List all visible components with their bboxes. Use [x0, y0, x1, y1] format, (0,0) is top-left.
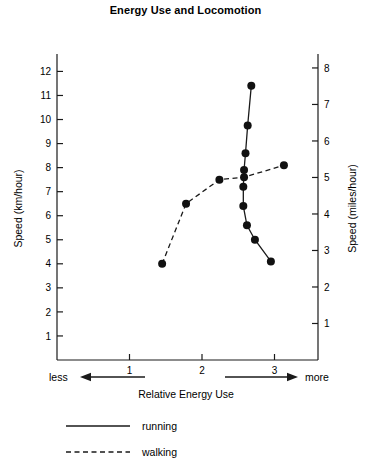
data-point-walking[interactable]	[215, 176, 223, 184]
data-point-running[interactable]	[247, 82, 255, 90]
legend-label-walking: walking	[141, 446, 177, 458]
y-axis-title-left: Speed (km/hour)	[12, 169, 24, 247]
data-point-running[interactable]	[239, 183, 247, 191]
data-point-walking[interactable]	[280, 161, 288, 169]
y-tick-label-left: 9	[45, 138, 51, 149]
data-point-running[interactable]	[267, 257, 275, 265]
y-tick-label-left: 6	[45, 210, 51, 221]
x-tick-label: 1	[127, 365, 133, 376]
y-tick-label-right: 5	[324, 172, 330, 183]
data-point-walking[interactable]	[182, 200, 190, 208]
y-tick-label-left: 7	[45, 186, 51, 197]
legend-label-running: running	[142, 420, 177, 432]
x-axis-less-label: less	[49, 371, 68, 383]
data-point-walking[interactable]	[240, 173, 248, 181]
data-point-running[interactable]	[239, 202, 247, 210]
y-tick-label-left: 3	[45, 282, 51, 293]
x-axis-more-label: more	[305, 371, 329, 383]
chart-container: Energy Use and Locomotion 12345678910111…	[0, 0, 371, 476]
series-line-running	[243, 86, 271, 262]
y-tick-label-right: 4	[324, 209, 330, 220]
data-point-walking[interactable]	[158, 260, 166, 268]
x-tick-label: 3	[272, 365, 278, 376]
data-point-running[interactable]	[244, 122, 252, 130]
y-axis-title-right: Speed (miles/hour)	[346, 164, 358, 253]
y-tick-label-left: 12	[40, 66, 52, 77]
y-tick-label-right: 2	[324, 282, 330, 293]
y-tick-label-left: 11	[41, 90, 52, 101]
data-point-running[interactable]	[251, 236, 259, 244]
y-tick-label-left: 2	[45, 307, 51, 318]
x-tick-label: 2	[199, 365, 205, 376]
y-tick-label-left: 4	[45, 258, 51, 269]
y-tick-label-left: 1	[45, 331, 51, 342]
more-arrow-head-icon	[287, 373, 298, 381]
data-point-running[interactable]	[242, 149, 250, 157]
y-tick-label-left: 5	[45, 234, 51, 245]
y-tick-label-right: 8	[324, 63, 330, 74]
y-tick-label-left: 8	[45, 162, 51, 173]
y-tick-label-right: 7	[324, 99, 330, 110]
data-point-running[interactable]	[243, 221, 251, 229]
y-tick-label-right: 1	[324, 318, 330, 329]
x-axis-title: Relative Energy Use	[138, 388, 234, 400]
chart-svg: 12345678910111212345678123Speed (km/hour…	[0, 0, 371, 476]
y-tick-label-left: 10	[40, 114, 52, 125]
data-point-running[interactable]	[240, 166, 248, 174]
less-arrow-head-icon	[80, 373, 91, 381]
y-tick-label-right: 3	[324, 245, 330, 256]
y-tick-label-right: 6	[324, 136, 330, 147]
